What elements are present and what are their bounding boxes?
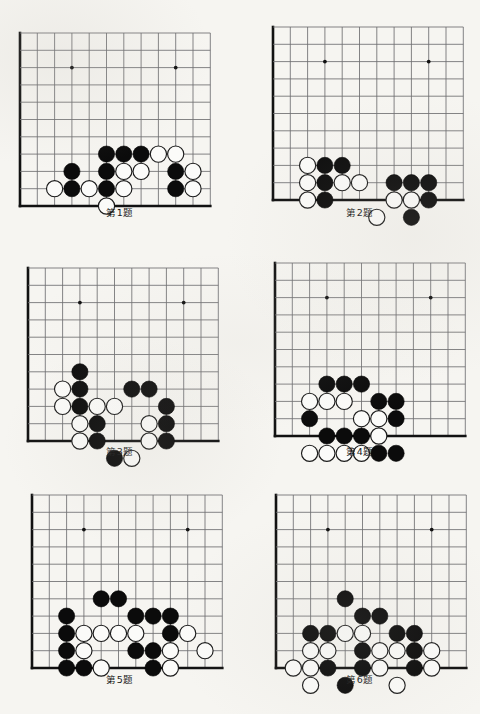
white-stone[interactable] xyxy=(302,393,318,409)
black-stone[interactable] xyxy=(406,643,422,659)
black-stone[interactable] xyxy=(124,381,140,397)
black-stone[interactable] xyxy=(386,175,402,191)
white-stone[interactable] xyxy=(89,398,105,414)
black-stone[interactable] xyxy=(141,381,157,397)
white-stone[interactable] xyxy=(371,428,387,444)
black-stone[interactable] xyxy=(59,643,75,659)
black-stone[interactable] xyxy=(319,428,335,444)
white-stone[interactable] xyxy=(180,625,196,641)
black-stone[interactable] xyxy=(303,625,319,641)
black-stone[interactable] xyxy=(336,428,352,444)
black-stone[interactable] xyxy=(89,416,105,432)
black-stone[interactable] xyxy=(372,608,388,624)
white-stone[interactable] xyxy=(141,416,157,432)
black-stone[interactable] xyxy=(93,591,109,607)
white-stone[interactable] xyxy=(424,643,440,659)
white-stone[interactable] xyxy=(336,393,352,409)
black-stone[interactable] xyxy=(128,608,144,624)
black-stone[interactable] xyxy=(128,643,144,659)
go-grid xyxy=(20,33,224,216)
black-stone[interactable] xyxy=(162,625,178,641)
black-stone[interactable] xyxy=(353,376,369,392)
black-stone[interactable] xyxy=(110,591,126,607)
white-stone[interactable] xyxy=(185,181,201,197)
white-stone[interactable] xyxy=(47,181,63,197)
black-stone[interactable] xyxy=(133,146,149,162)
white-stone[interactable] xyxy=(353,411,369,427)
black-stone[interactable] xyxy=(145,643,161,659)
white-stone[interactable] xyxy=(55,381,71,397)
black-stone[interactable] xyxy=(59,625,75,641)
white-stone[interactable] xyxy=(354,625,370,641)
white-stone[interactable] xyxy=(337,625,353,641)
white-stone[interactable] xyxy=(371,411,387,427)
go-board-4[interactable] xyxy=(240,238,480,476)
black-stone[interactable] xyxy=(168,181,184,197)
black-stone[interactable] xyxy=(59,608,75,624)
black-stone[interactable] xyxy=(406,625,422,641)
black-stone[interactable] xyxy=(337,591,353,607)
black-stone[interactable] xyxy=(389,625,405,641)
white-stone[interactable] xyxy=(300,157,316,173)
white-stone[interactable] xyxy=(372,643,388,659)
white-stone[interactable] xyxy=(185,163,201,179)
white-stone[interactable] xyxy=(76,643,92,659)
black-stone[interactable] xyxy=(145,608,161,624)
black-stone[interactable] xyxy=(72,381,88,397)
black-stone[interactable] xyxy=(158,416,174,432)
white-stone[interactable] xyxy=(116,163,132,179)
black-stone[interactable] xyxy=(72,364,88,380)
black-stone[interactable] xyxy=(354,643,370,659)
black-stone[interactable] xyxy=(421,175,437,191)
white-stone[interactable] xyxy=(168,146,184,162)
white-stone[interactable] xyxy=(303,643,319,659)
black-stone[interactable] xyxy=(371,393,387,409)
white-stone[interactable] xyxy=(320,643,336,659)
black-stone[interactable] xyxy=(168,163,184,179)
white-stone[interactable] xyxy=(128,625,144,641)
black-stone[interactable] xyxy=(158,398,174,414)
black-stone[interactable] xyxy=(388,393,404,409)
black-stone[interactable] xyxy=(98,181,114,197)
white-stone[interactable] xyxy=(319,393,335,409)
black-stone[interactable] xyxy=(353,428,369,444)
white-stone[interactable] xyxy=(76,625,92,641)
black-stone[interactable] xyxy=(64,181,80,197)
star-point xyxy=(82,528,86,532)
white-stone[interactable] xyxy=(81,181,97,197)
black-stone[interactable] xyxy=(317,175,333,191)
go-board-1[interactable] xyxy=(0,0,240,238)
white-stone[interactable] xyxy=(116,181,132,197)
white-stone[interactable] xyxy=(133,163,149,179)
white-stone[interactable] xyxy=(162,643,178,659)
black-stone[interactable] xyxy=(64,163,80,179)
black-stone[interactable] xyxy=(98,163,114,179)
black-stone[interactable] xyxy=(317,157,333,173)
white-stone[interactable] xyxy=(197,643,213,659)
white-stone[interactable] xyxy=(55,398,71,414)
black-stone[interactable] xyxy=(302,411,318,427)
black-stone[interactable] xyxy=(388,411,404,427)
black-stone[interactable] xyxy=(320,625,336,641)
black-stone[interactable] xyxy=(319,376,335,392)
black-stone[interactable] xyxy=(334,157,350,173)
problem-caption-1: 第1题 xyxy=(0,205,240,219)
black-stone[interactable] xyxy=(116,146,132,162)
black-stone[interactable] xyxy=(336,376,352,392)
black-stone[interactable] xyxy=(72,398,88,414)
white-stone[interactable] xyxy=(72,416,88,432)
white-stone[interactable] xyxy=(389,643,405,659)
black-stone[interactable] xyxy=(98,146,114,162)
white-stone[interactable] xyxy=(93,625,109,641)
white-stone[interactable] xyxy=(351,175,367,191)
white-stone[interactable] xyxy=(150,146,166,162)
black-stone[interactable] xyxy=(403,175,419,191)
go-board-3[interactable] xyxy=(0,238,240,476)
white-stone[interactable] xyxy=(300,175,316,191)
black-stone[interactable] xyxy=(162,608,178,624)
white-stone[interactable] xyxy=(106,398,122,414)
black-stone[interactable] xyxy=(354,608,370,624)
go-board-2[interactable] xyxy=(240,0,480,238)
white-stone[interactable] xyxy=(334,175,350,191)
white-stone[interactable] xyxy=(110,625,126,641)
